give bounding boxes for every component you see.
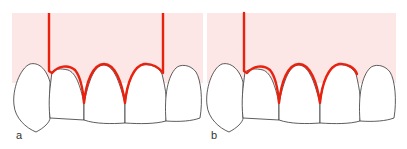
panel-b: b xyxy=(207,13,396,141)
dental-flap-diagram: a b xyxy=(0,0,407,149)
panel-label-b: b xyxy=(211,129,217,141)
panel-label-a: a xyxy=(16,129,23,141)
panel-a: a xyxy=(12,13,203,141)
